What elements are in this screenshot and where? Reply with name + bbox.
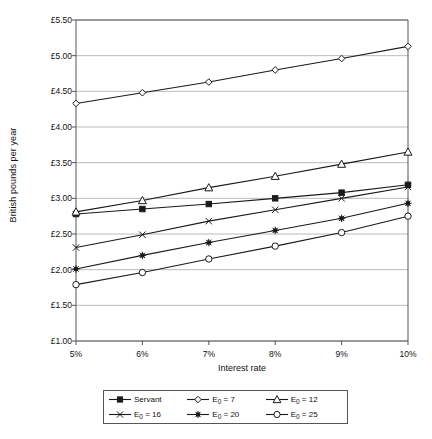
data-point-marker (140, 206, 145, 211)
legend-item-e0-20[interactable]: E0 = 20 (186, 409, 264, 420)
data-point-marker (73, 100, 80, 107)
legend-label: Servant (134, 395, 162, 404)
data-point-marker (117, 397, 122, 402)
data-point-marker (195, 396, 201, 402)
series-line (76, 187, 408, 248)
data-point-marker (404, 200, 411, 207)
x-axis-tick-label: 8% (269, 349, 281, 359)
x-axis-tick-label: 10% (399, 349, 416, 359)
legend-item-servant[interactable]: Servant (108, 394, 186, 405)
plot-area (0, 0, 432, 380)
data-point-marker (206, 201, 211, 206)
legend-item-e0-7[interactable]: E0 = 7 (186, 394, 264, 405)
data-point-marker (205, 239, 212, 246)
legend-marker-icon (108, 409, 132, 420)
data-point-marker (195, 411, 202, 418)
legend-label: E0 = 7 (212, 395, 235, 404)
series-line (76, 216, 408, 284)
data-point-marker (404, 148, 412, 155)
series-line (76, 203, 408, 269)
legend-label: E0 = 16 (134, 410, 161, 419)
data-point-marker (274, 411, 280, 417)
data-point-marker (405, 43, 412, 50)
data-point-marker (206, 79, 213, 86)
legend-label: E0 = 20 (212, 410, 239, 419)
data-point-marker (139, 89, 146, 96)
data-point-marker (339, 190, 344, 195)
series-line (76, 46, 408, 103)
data-point-marker (273, 196, 278, 201)
legend-item-e0-25[interactable]: E0 = 25 (265, 409, 343, 420)
legend-label: E0 = 12 (291, 395, 318, 404)
series-e0-25 (73, 213, 411, 288)
series-e0-16 (73, 184, 411, 251)
data-point-marker (405, 213, 411, 219)
chart-legend: ServantE0 = 7E0 = 12E0 = 16E0 = 20E0 = 2… (103, 390, 348, 424)
series-e0-7 (73, 43, 412, 107)
x-axis-tick-label: 6% (136, 349, 148, 359)
legend-marker-icon (265, 394, 289, 405)
legend-label: E0 = 25 (291, 410, 318, 419)
data-point-marker (73, 281, 79, 287)
legend-marker-icon (108, 394, 132, 405)
legend-marker-icon (265, 409, 289, 420)
series-servant (73, 182, 410, 217)
data-point-marker (272, 227, 279, 234)
series-line (76, 185, 408, 214)
legend-item-e0-12[interactable]: E0 = 12 (265, 394, 343, 405)
data-point-marker (139, 252, 146, 259)
x-axis-title: Interest rate (76, 363, 408, 373)
x-axis-tick-label: 7% (203, 349, 215, 359)
legend-marker-icon (186, 394, 210, 405)
series-e0-12 (72, 148, 412, 215)
x-axis-tick-label: 5% (70, 349, 82, 359)
legend-item-e0-16[interactable]: E0 = 16 (108, 409, 186, 420)
series-line (76, 152, 408, 212)
data-point-marker (338, 55, 345, 62)
data-point-marker (139, 269, 145, 275)
data-point-marker (72, 265, 79, 272)
data-point-marker (338, 229, 344, 235)
chart-container: British pounds per year £1.00£1.50£2.00£… (0, 0, 432, 439)
data-point-marker (272, 243, 278, 249)
legend-marker-icon (186, 409, 210, 420)
x-axis-tick-label: 9% (335, 349, 347, 359)
data-point-marker (338, 215, 345, 222)
data-point-marker (206, 256, 212, 262)
data-point-marker (272, 67, 279, 74)
